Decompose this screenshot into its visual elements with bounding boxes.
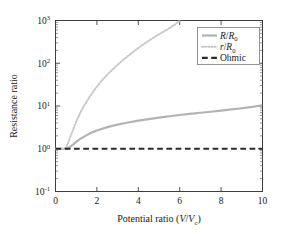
y-tick-label: 101 (37, 100, 50, 112)
x-tick-label: 4 (136, 196, 141, 206)
x-tick-label: 2 (95, 196, 100, 206)
chart-legend: R/R0r/R0Ohmic (198, 28, 260, 65)
y-axis-tick-labels: 10-1100101102103 (35, 14, 51, 197)
y-tick-label: 100 (37, 143, 51, 155)
x-tick-label: 0 (53, 196, 58, 206)
y-tick-label: 10-1 (35, 185, 50, 197)
legend-label-2: Ohmic (220, 53, 246, 63)
x-tick-label: 8 (219, 196, 224, 206)
x-axis-title: Potential ratio (V/Vc) (117, 213, 201, 227)
figure-container: 10-1100101102103 0246810 Resistance rati… (0, 0, 284, 234)
series-line-1 (56, 21, 180, 149)
y-tick-label: 102 (37, 57, 50, 69)
x-tick-label: 10 (258, 196, 268, 206)
y-axis-title: Resistance ratio (8, 74, 19, 138)
series-line-0 (56, 105, 263, 148)
x-axis-tick-labels: 0246810 (53, 196, 267, 206)
x-tick-label: 6 (177, 196, 182, 206)
y-tick-label: 103 (37, 14, 51, 26)
chart-canvas: 10-1100101102103 0246810 Resistance rati… (0, 0, 284, 234)
